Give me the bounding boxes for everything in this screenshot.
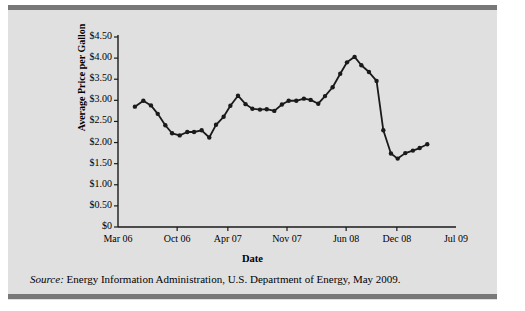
data-point-marker (199, 128, 203, 132)
data-point-marker (207, 135, 211, 139)
data-point-marker (221, 115, 225, 119)
x-axis-title: Date (8, 253, 497, 264)
data-point-marker (258, 107, 262, 111)
chart-plot-area: Average Price per Gallon Date $4.50$4.00… (8, 10, 497, 265)
y-tick-label: $3.00 (63, 93, 112, 104)
data-point-marker (359, 63, 363, 67)
data-point-marker (425, 142, 429, 146)
data-point-marker (294, 99, 298, 103)
figure-bottom-rule (8, 294, 497, 299)
data-point-marker (330, 85, 334, 89)
y-tick-label: $3.50 (63, 72, 112, 83)
source-note: Source: Energy Information Administratio… (30, 273, 401, 285)
y-tick-label: $1.00 (63, 178, 112, 189)
data-point-marker (338, 72, 342, 76)
x-tick-label: Apr 07 (198, 233, 258, 244)
data-point-marker (367, 70, 371, 74)
figure-panel: Average Price per Gallon Date $4.50$4.00… (8, 5, 497, 300)
x-tick-label: Dec 08 (367, 233, 427, 244)
data-point-marker (149, 103, 153, 107)
data-point-marker (308, 98, 312, 102)
data-point-marker (236, 93, 240, 97)
data-point-marker (156, 112, 160, 116)
data-point-marker (163, 123, 167, 127)
data-point-marker (141, 99, 145, 103)
data-point-marker (228, 104, 232, 108)
data-point-marker (345, 60, 349, 64)
source-label: Source: (30, 273, 64, 285)
data-point-marker (316, 102, 320, 106)
data-point-marker (272, 109, 276, 113)
data-point-marker (214, 123, 218, 127)
y-tick-label: $4.50 (63, 30, 112, 41)
y-tick-label: $0 (63, 220, 112, 231)
data-point-marker (286, 99, 290, 103)
data-point-marker (323, 94, 327, 98)
data-point-marker (395, 156, 399, 160)
y-tick-label: $2.00 (63, 136, 112, 147)
y-tick-label: $4.00 (63, 51, 112, 62)
data-point-marker (243, 102, 247, 106)
data-point-marker (381, 128, 385, 132)
data-point-marker (389, 151, 393, 155)
data-point-marker (403, 151, 407, 155)
data-point-marker (302, 96, 306, 100)
data-point-marker (411, 148, 415, 152)
price-line-series (135, 57, 427, 159)
data-point-marker (192, 130, 196, 134)
data-point-marker (374, 79, 378, 83)
data-point-marker (352, 55, 356, 59)
x-tick-label: Mar 06 (88, 233, 148, 244)
y-tick-label: $2.50 (63, 114, 112, 125)
data-point-marker (417, 146, 421, 150)
data-point-marker (133, 104, 137, 108)
data-point-marker (265, 107, 269, 111)
data-point-marker (250, 107, 254, 111)
x-tick-label: Nov 07 (257, 233, 317, 244)
data-point-marker (280, 102, 284, 106)
x-tick-label: Jul 09 (426, 233, 486, 244)
y-tick-label: $1.50 (63, 157, 112, 168)
source-body: Energy Information Administration, U.S. … (64, 273, 401, 285)
data-point-marker (185, 130, 189, 134)
data-point-marker (177, 133, 181, 137)
y-tick-label: $0.50 (63, 199, 112, 210)
data-point-marker (170, 131, 174, 135)
